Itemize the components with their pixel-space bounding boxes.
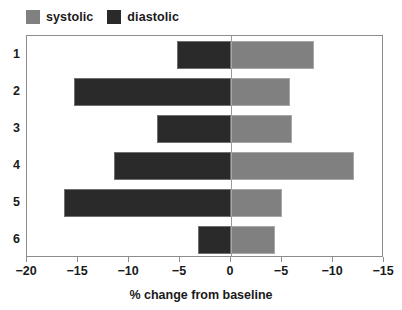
x-tick-mark — [281, 257, 282, 262]
x-tick-label-7: −15 — [363, 264, 402, 278]
x-axis: % change from baseline −20−15−10−50−5−10… — [0, 0, 402, 310]
x-tick-label-6: −10 — [312, 264, 352, 278]
x-tick-mark — [26, 257, 27, 262]
x-tick-label-1: −15 — [57, 264, 97, 278]
x-tick-mark — [230, 257, 231, 262]
x-tick-mark — [77, 257, 78, 262]
x-tick-label-2: −10 — [108, 264, 148, 278]
bar-chart: systolicdiastolic 123456 % change from b… — [0, 0, 402, 310]
x-tick-mark — [128, 257, 129, 262]
x-axis-title: % change from baseline — [0, 288, 402, 302]
x-tick-label-3: −5 — [159, 264, 199, 278]
x-tick-mark — [179, 257, 180, 262]
x-tick-label-4: 0 — [210, 264, 250, 278]
x-tick-mark — [383, 257, 384, 262]
x-tick-label-5: −5 — [261, 264, 301, 278]
x-tick-mark — [332, 257, 333, 262]
x-tick-label-0: −20 — [6, 264, 46, 278]
